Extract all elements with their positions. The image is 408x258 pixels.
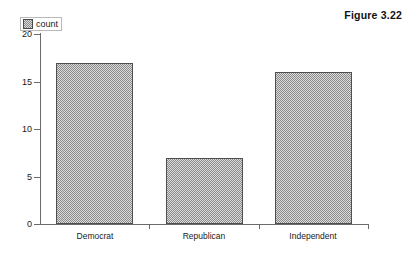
bar-chart-plot: 05101520 DemocratRepublicanIndependent bbox=[0, 0, 408, 258]
x-axis-label-democrat: Democrat bbox=[77, 232, 114, 241]
y-axis-tick-mark bbox=[34, 224, 40, 225]
y-axis-tick-label: 15 bbox=[6, 78, 32, 87]
x-axis-line bbox=[40, 224, 368, 225]
x-axis-label-independent: Independent bbox=[289, 232, 336, 241]
y-axis-tick-label: 0 bbox=[6, 220, 32, 229]
y-axis-tick-mark bbox=[34, 82, 40, 83]
y-axis-tick-label: 20 bbox=[6, 30, 32, 39]
bar-republican bbox=[166, 158, 243, 225]
x-axis-tick-mark bbox=[259, 224, 260, 229]
y-axis-tick-mark bbox=[34, 34, 40, 35]
x-axis-tick-mark bbox=[368, 224, 369, 229]
y-axis-line bbox=[40, 33, 41, 225]
y-axis-tick-mark bbox=[34, 177, 40, 178]
x-axis-tick-mark bbox=[149, 224, 150, 229]
y-axis-tick-mark bbox=[34, 129, 40, 130]
x-axis-label-republican: Republican bbox=[183, 232, 226, 241]
y-axis-tick-label: 10 bbox=[6, 125, 32, 134]
bar-independent bbox=[275, 72, 352, 224]
bar-democrat bbox=[56, 63, 133, 225]
y-axis-tick-label: 5 bbox=[6, 173, 32, 182]
